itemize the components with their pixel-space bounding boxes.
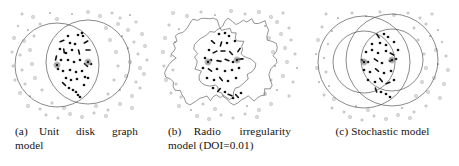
node-outside — [256, 116, 258, 118]
node-outside — [443, 83, 445, 85]
plot-svg-c — [306, 0, 459, 124]
node-inside — [79, 96, 82, 99]
node-outside — [69, 113, 71, 115]
node-edge — [375, 88, 376, 92]
node-outside — [105, 115, 107, 117]
node-outside — [107, 109, 109, 111]
node-outside — [230, 10, 232, 12]
node-outside — [214, 108, 216, 110]
node-inside — [204, 57, 207, 60]
node-outside — [95, 105, 97, 107]
node-outside — [292, 81, 294, 83]
caption-panel-a: (a) Unit disk graph model — [15, 125, 138, 152]
panel-stochastic: (c) Stochastic model — [306, 0, 459, 166]
node-outside — [318, 81, 320, 83]
node-inside — [60, 59, 63, 62]
node-outside — [170, 55, 172, 57]
node-outside — [165, 79, 167, 81]
node-edge — [380, 78, 382, 81]
node-edge — [220, 42, 221, 46]
node-outside — [111, 12, 113, 14]
plot-svg-a — [0, 0, 153, 124]
node-outside — [141, 33, 143, 35]
node-outside — [41, 89, 43, 91]
node-outside — [143, 73, 145, 75]
node-outside — [401, 107, 403, 109]
node-outside — [170, 92, 172, 94]
node-outside — [415, 95, 417, 97]
node-edge — [228, 94, 232, 95]
node-edge — [374, 59, 377, 61]
node-outside — [45, 114, 47, 116]
node-outside — [379, 11, 381, 13]
node-outside — [107, 93, 109, 95]
plot-svg-b — [153, 0, 306, 124]
node-outside — [373, 115, 375, 117]
node-outside — [280, 33, 282, 35]
node-outside — [127, 29, 129, 31]
node-inside — [84, 76, 87, 79]
node-inside — [389, 96, 392, 99]
node-inside — [232, 97, 235, 100]
node-outside — [427, 91, 429, 93]
node-outside — [276, 89, 278, 91]
node-edge — [208, 69, 211, 71]
node-outside — [270, 16, 272, 18]
node-inside — [231, 69, 234, 72]
node-outside — [105, 27, 107, 29]
node-outside — [268, 37, 270, 39]
node-inside — [69, 69, 72, 72]
node-outside — [180, 96, 182, 98]
node-outside — [323, 57, 325, 59]
node-outside — [419, 17, 421, 19]
node-outside — [409, 117, 411, 119]
transmitter-center — [56, 64, 58, 66]
node-outside — [113, 79, 115, 81]
node-inside — [393, 79, 396, 82]
node-inside — [75, 91, 78, 94]
node-outside — [244, 13, 246, 15]
node-inside — [59, 48, 62, 51]
node-inside — [206, 77, 209, 80]
node-inside — [387, 36, 390, 39]
node-inside — [385, 50, 388, 53]
node-inside — [67, 59, 70, 62]
node-outside — [129, 14, 131, 16]
node-outside — [172, 12, 174, 14]
node-outside — [190, 109, 192, 111]
node-outside — [323, 94, 325, 96]
node-outside — [24, 83, 26, 85]
node-inside — [363, 69, 366, 72]
node-edge — [79, 50, 80, 54]
node-outside — [431, 13, 433, 15]
node-outside — [244, 113, 246, 115]
node-edge — [225, 59, 229, 60]
node-outside — [19, 54, 21, 56]
node-outside — [284, 47, 286, 49]
node-outside — [135, 81, 137, 83]
node-outside — [135, 21, 137, 23]
node-inside — [65, 52, 68, 55]
node-edge — [386, 82, 390, 83]
transmitter-center — [363, 61, 365, 63]
node-outside — [51, 102, 53, 104]
node-inside — [385, 93, 388, 96]
node-inside — [73, 61, 76, 64]
node-inside — [369, 71, 372, 74]
node-outside — [331, 107, 333, 109]
node-inside — [82, 35, 85, 38]
caption-a-line1: (a) Unit disk graph — [15, 125, 138, 139]
node-outside — [439, 97, 441, 99]
node-outside — [325, 71, 327, 73]
node-inside — [383, 33, 386, 36]
node-outside — [175, 83, 177, 85]
node-outside — [246, 105, 248, 107]
node-outside — [163, 65, 165, 67]
node-edge — [60, 40, 64, 42]
node-outside — [214, 14, 216, 16]
node-outside — [413, 111, 415, 113]
caption-a-line2: model — [15, 139, 138, 153]
node-outside — [119, 103, 121, 105]
transmitter-center — [87, 61, 89, 63]
node-inside — [227, 80, 230, 83]
